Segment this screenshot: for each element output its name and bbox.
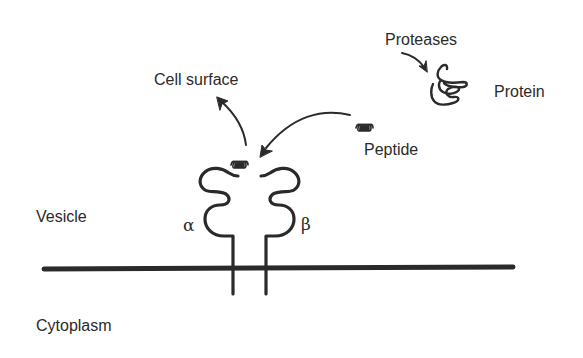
diagram-canvas xyxy=(0,0,583,358)
cytoplasm-label: Cytoplasm xyxy=(36,318,112,334)
arrow-proteases-to-protein xyxy=(402,53,424,67)
arrow-peptide-to-receptor xyxy=(266,113,350,148)
alpha-chain-label: α xyxy=(183,217,194,234)
proteases-label: Proteases xyxy=(385,32,457,48)
beta-chain xyxy=(261,168,299,294)
arrowhead-cell-surface xyxy=(217,97,228,110)
arrow-to-cell-surface xyxy=(222,102,246,145)
bound-peptide-coil xyxy=(231,161,248,168)
vesicle-membrane xyxy=(44,267,513,269)
protein-fold xyxy=(431,65,467,105)
protein-label: Protein xyxy=(494,84,545,100)
peptide-label: Peptide xyxy=(364,142,418,158)
beta-chain-label: β xyxy=(301,216,311,233)
alpha-chain xyxy=(200,168,238,294)
cell-surface-label: Cell surface xyxy=(154,72,238,88)
vesicle-label: Vesicle xyxy=(36,209,87,225)
free-peptide-coil xyxy=(356,124,373,131)
